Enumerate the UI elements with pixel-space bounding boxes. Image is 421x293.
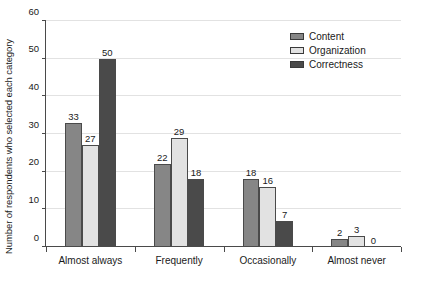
bar-chart-figure: Number of respondents who selected each … bbox=[0, 0, 421, 293]
bar-value-label: 27 bbox=[85, 133, 96, 144]
legend-label: Content bbox=[309, 31, 344, 42]
bar-slot: 22 bbox=[154, 21, 171, 247]
x-axis-category-label: Frequently bbox=[135, 255, 224, 266]
bar[interactable] bbox=[171, 138, 188, 247]
y-tick-label: 20 bbox=[28, 156, 39, 167]
bar-value-label: 50 bbox=[102, 47, 113, 58]
bar[interactable] bbox=[99, 59, 116, 247]
x-tick-mark bbox=[224, 247, 225, 252]
bar[interactable] bbox=[154, 164, 171, 247]
y-tick-label: 50 bbox=[28, 43, 39, 54]
bar[interactable] bbox=[259, 187, 276, 247]
bar-group: 222918Frequently bbox=[135, 21, 224, 247]
bar-value-label: 16 bbox=[263, 175, 274, 186]
bar-group: 332750Almost always bbox=[46, 21, 135, 247]
bar[interactable] bbox=[65, 123, 82, 247]
bar[interactable] bbox=[276, 221, 293, 247]
bar[interactable] bbox=[188, 179, 205, 247]
bar-slot: 18 bbox=[188, 21, 205, 247]
bar-value-label: 33 bbox=[68, 111, 79, 122]
bar-value-label: 29 bbox=[174, 126, 185, 137]
bar-value-label: 3 bbox=[354, 224, 359, 235]
y-tick-label: 60 bbox=[28, 5, 39, 16]
bar-value-label: 7 bbox=[282, 209, 287, 220]
y-tick-label: 10 bbox=[28, 193, 39, 204]
bar-slot: 33 bbox=[65, 21, 82, 247]
y-tick-label: 0 bbox=[34, 231, 39, 242]
bar-slot: 16 bbox=[259, 21, 276, 247]
x-axis-category-label: Almost always bbox=[46, 255, 135, 266]
legend-label: Correctness bbox=[309, 59, 363, 70]
x-tick-mark bbox=[46, 247, 47, 252]
legend-label: Organization bbox=[309, 45, 366, 56]
bar-slot: 18 bbox=[243, 21, 260, 247]
y-tick-label: 30 bbox=[28, 118, 39, 129]
x-axis-category-label: Occasionally bbox=[224, 255, 313, 266]
bar[interactable] bbox=[82, 145, 99, 247]
bar-value-label: 18 bbox=[191, 167, 202, 178]
y-tick-label: 40 bbox=[28, 80, 39, 91]
x-axis-category-label: Almost never bbox=[312, 255, 401, 266]
x-tick-mark bbox=[135, 247, 136, 252]
bar-value-label: 0 bbox=[371, 235, 376, 246]
bar-slot: 50 bbox=[99, 21, 116, 247]
bar[interactable] bbox=[331, 239, 348, 247]
bar[interactable] bbox=[243, 179, 260, 247]
x-tick-mark bbox=[401, 247, 402, 252]
legend-item[interactable]: Content bbox=[290, 30, 366, 42]
x-tick-mark bbox=[312, 247, 313, 252]
bar-slot: 29 bbox=[171, 21, 188, 247]
legend-item[interactable]: Organization bbox=[290, 44, 366, 56]
bar-slot: 27 bbox=[82, 21, 99, 247]
bar-value-label: 18 bbox=[246, 167, 257, 178]
legend-color-swatch bbox=[290, 33, 304, 40]
bar-slot: 0 bbox=[365, 21, 382, 247]
bar-value-label: 22 bbox=[157, 152, 168, 163]
bar[interactable] bbox=[348, 236, 365, 247]
y-axis-title: Number of respondents who selected each … bbox=[0, 0, 16, 293]
bar-value-label: 2 bbox=[337, 227, 342, 238]
legend-color-swatch bbox=[290, 61, 304, 68]
legend: ContentOrganizationCorrectness bbox=[290, 30, 366, 70]
legend-item[interactable]: Correctness bbox=[290, 58, 366, 70]
legend-color-swatch bbox=[290, 47, 304, 54]
